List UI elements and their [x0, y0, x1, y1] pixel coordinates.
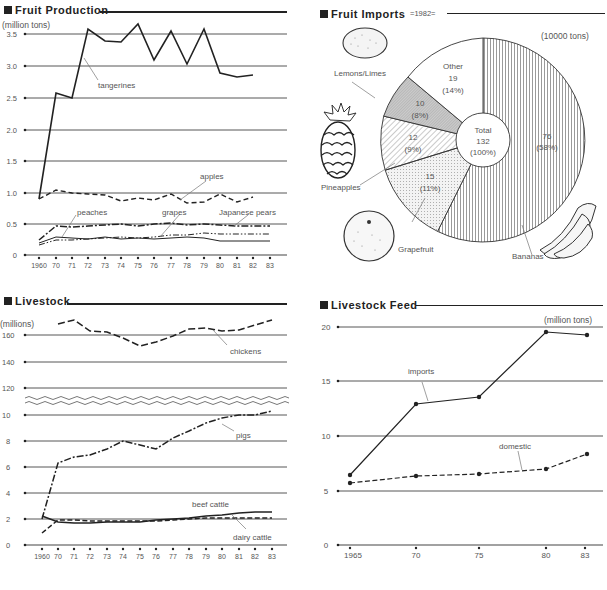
svg-text:160: 160 — [2, 331, 15, 340]
svg-text:(58%): (58%) — [536, 143, 558, 152]
svg-text:70: 70 — [52, 262, 60, 269]
svg-text:80: 80 — [216, 262, 224, 269]
svg-text:83: 83 — [581, 551, 590, 560]
svg-text:3.0: 3.0 — [7, 62, 17, 71]
svg-text:(8%): (8%) — [412, 111, 429, 120]
svg-text:(14%): (14%) — [442, 86, 464, 95]
japanese-pears-label: Japanese pears — [219, 208, 276, 217]
svg-text:81: 81 — [233, 262, 241, 269]
svg-text:1960: 1960 — [34, 553, 50, 560]
livestock-feed-panel: Livestock Feed (million tons) 20 15 10 5… — [300, 290, 607, 590]
svg-text:79: 79 — [202, 553, 210, 560]
svg-text:19: 19 — [449, 74, 458, 83]
livestock-plot: 160 140 120 10 8 6 4 2 0 1960 70 71 72 7… — [0, 290, 300, 590]
apples-line — [39, 190, 253, 203]
imports-line — [350, 332, 587, 475]
pigs-line — [42, 411, 272, 519]
svg-text:8: 8 — [6, 437, 10, 446]
dairy-cattle-label: dairy cattle — [233, 533, 272, 542]
svg-text:10: 10 — [416, 99, 425, 108]
svg-text:10: 10 — [2, 411, 10, 420]
svg-text:72: 72 — [86, 553, 94, 560]
svg-text:20: 20 — [322, 323, 331, 332]
svg-text:(11%): (11%) — [420, 184, 441, 193]
apples-label: apples — [200, 172, 224, 181]
series-labels: tangerines apples peaches grapes Japanes… — [77, 81, 276, 217]
svg-text:75: 75 — [134, 262, 142, 269]
svg-text:71: 71 — [68, 262, 76, 269]
svg-text:(100%): (100%) — [470, 148, 496, 157]
svg-text:1.0: 1.0 — [7, 189, 17, 198]
livestock-feed-plot: 20 15 10 5 0 1965 70 75 80 83 imports do… — [300, 290, 607, 590]
svg-text:79: 79 — [200, 262, 208, 269]
svg-text:73: 73 — [101, 262, 109, 269]
grapefruit-icon — [344, 211, 394, 261]
svg-text:2.0: 2.0 — [7, 126, 17, 135]
svg-text:82: 82 — [251, 553, 259, 560]
x-tick-dots — [38, 257, 271, 259]
svg-text:81: 81 — [235, 553, 243, 560]
imports-label: imports — [408, 367, 434, 376]
svg-text:0: 0 — [6, 541, 10, 550]
svg-text:76: 76 — [543, 132, 552, 141]
svg-text:120: 120 — [2, 384, 15, 393]
beef-cattle-label: beef cattle — [192, 500, 229, 509]
svg-text:74: 74 — [119, 553, 127, 560]
grapes-label: grapes — [162, 208, 186, 217]
svg-text:74: 74 — [117, 262, 125, 269]
svg-text:4: 4 — [6, 489, 10, 498]
beef-cattle-line — [42, 512, 272, 523]
pineapple-icon — [321, 103, 356, 178]
chickens-label: chickens — [230, 347, 261, 356]
svg-text:72: 72 — [84, 262, 92, 269]
svg-text:77: 77 — [169, 553, 177, 560]
svg-text:2.5: 2.5 — [7, 94, 17, 103]
svg-text:73: 73 — [103, 553, 111, 560]
svg-text:77: 77 — [167, 262, 175, 269]
svg-text:140: 140 — [2, 358, 15, 367]
fruit-imports-pie: Total 132 (100%) Other 19 (14%) 10 (8%) … — [300, 0, 607, 280]
pineapples-label: Pineapples — [321, 183, 361, 192]
svg-text:15: 15 — [322, 377, 331, 386]
fruit-imports-panel: Fruit Imports =1982= (10000 tons) Total … — [300, 0, 607, 280]
domestic-line — [350, 454, 587, 483]
svg-text:80: 80 — [218, 553, 226, 560]
peaches-label: peaches — [77, 208, 107, 217]
fruit-production-plot: 3.5 3.0 2.5 2.0 1.5 1.0 0.5 0 1960 70 71… — [0, 0, 300, 275]
svg-text:75: 75 — [475, 551, 484, 560]
japanese-pears-line — [39, 223, 270, 240]
svg-text:83: 83 — [268, 553, 276, 560]
svg-text:2: 2 — [6, 515, 10, 524]
svg-text:5: 5 — [324, 487, 329, 496]
lemon-icon — [343, 28, 387, 58]
lemons-label: Lemons/Limes — [334, 69, 386, 78]
svg-text:78: 78 — [185, 553, 193, 560]
chickens-line — [58, 320, 272, 346]
axis-break — [25, 397, 289, 405]
svg-text:70: 70 — [412, 551, 421, 560]
svg-text:80: 80 — [542, 551, 551, 560]
svg-text:3.5: 3.5 — [7, 30, 17, 39]
tangerines-label: tangerines — [98, 81, 135, 90]
svg-text:0.5: 0.5 — [7, 220, 17, 229]
x-tick-labels: 1960 70 71 72 73 74 75 76 77 78 79 80 81… — [31, 262, 274, 269]
svg-text:71: 71 — [70, 553, 78, 560]
svg-text:0: 0 — [13, 251, 17, 260]
livestock-panel: Livestock (millions) 160 140 120 10 — [0, 290, 300, 590]
svg-text:70: 70 — [54, 553, 62, 560]
gridlines — [25, 34, 287, 255]
grapefruit-label: Grapefruit — [398, 245, 434, 254]
svg-text:0: 0 — [324, 541, 329, 550]
bananas-label: Bananas — [512, 252, 544, 261]
svg-text:76: 76 — [150, 262, 158, 269]
svg-text:76: 76 — [152, 553, 160, 560]
svg-text:132: 132 — [476, 137, 490, 146]
svg-text:1960: 1960 — [31, 262, 47, 269]
y-tick-labels: 3.5 3.0 2.5 2.0 1.5 1.0 0.5 0 — [7, 30, 17, 260]
svg-text:82: 82 — [249, 262, 257, 269]
svg-text:10: 10 — [322, 432, 331, 441]
fruit-production-panel: Fruit Production (million tons) 3.5 3.0 … — [0, 0, 300, 275]
domestic-label: domestic — [499, 442, 531, 451]
svg-text:75: 75 — [136, 553, 144, 560]
svg-text:6: 6 — [6, 463, 10, 472]
